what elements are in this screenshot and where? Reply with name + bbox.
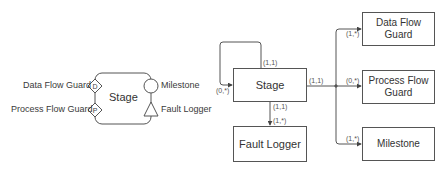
fault-logger-port-label: Fault Logger (161, 104, 212, 114)
cardinality-stage-to-children-source: (1,1) (309, 77, 323, 84)
svg-text:P: P (93, 107, 98, 114)
data-flow-guard-entity-label: Data Flow Guard (373, 17, 424, 41)
svg-text:D: D (92, 83, 97, 90)
cardinality-to-process-flow-guard: (0,*) (346, 77, 359, 84)
fault-logger-entity-label: Fault Logger (239, 138, 301, 150)
cardinality-stage-to-fault-source: (1,1) (273, 103, 287, 110)
cardinality-to-data-flow-guard: (1,*) (346, 30, 359, 37)
milestone-entity-box: Milestone (362, 127, 435, 161)
cardinality-to-milestone: (1,*) (346, 135, 359, 142)
fault-logger-entity-box: Fault Logger (233, 126, 307, 162)
data-flow-guard-port-label: Data Flow Guard (23, 80, 91, 90)
stage-entity-label: Stage (256, 79, 285, 91)
left-stage-label: Stage (109, 91, 138, 103)
process-flow-guard-port-label: Process Flow Guard (11, 104, 93, 114)
process-flow-guard-entity-label: Process Flow Guard (367, 75, 430, 99)
stage-entity-box: Stage (233, 68, 307, 102)
milestone-port-label: Milestone (161, 80, 200, 90)
data-flow-guard-entity-box: Data Flow Guard (362, 12, 435, 46)
milestone-circle-icon (144, 79, 158, 93)
process-flow-guard-entity-box: Process Flow Guard (362, 70, 435, 104)
cardinality-self-loop-target: (0,*) (216, 87, 229, 94)
milestone-entity-label: Milestone (377, 138, 420, 150)
cardinality-self-loop-source: (1,1) (263, 59, 277, 66)
stage-to-children-connector (306, 29, 361, 144)
cardinality-stage-to-fault-target: (1,*) (273, 117, 286, 124)
